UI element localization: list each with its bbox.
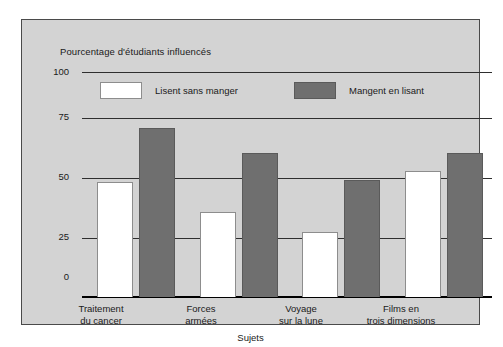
gridline-75 <box>82 118 492 119</box>
bar-0-1 <box>139 128 175 297</box>
x-category-line1: Films en <box>383 303 419 314</box>
bar-2-0 <box>302 232 338 297</box>
x-category-line2: du cancer <box>46 315 156 327</box>
y-tick-label-0: 0 <box>39 271 69 282</box>
bar-3-0 <box>405 171 441 297</box>
x-category-label-0: Traitement du cancer <box>46 303 156 326</box>
x-category-label-2: Voyage sur la lune <box>246 303 356 326</box>
bar-1-0 <box>200 212 236 298</box>
x-category-line2: sur la lune <box>246 315 356 327</box>
figure-canvas: Pourcentage d'étudiants influencés 100 7… <box>0 0 503 347</box>
x-category-label-3: Films en trois dimensions <box>346 303 456 326</box>
page-title: Pourcentage d'étudiants influencés <box>60 46 211 57</box>
x-category-line1: Traitement <box>78 303 123 314</box>
plot-area <box>82 72 492 297</box>
y-tick-label-50: 50 <box>39 171 69 182</box>
y-tick-label-75: 75 <box>39 111 69 122</box>
bar-1-1 <box>242 153 278 297</box>
bar-3-1 <box>447 153 483 297</box>
chart-panel: Pourcentage d'étudiants influencés 100 7… <box>21 19 480 325</box>
y-tick-label-25: 25 <box>39 231 69 242</box>
x-category-line2: trois dimensions <box>346 315 456 327</box>
y-tick-label-100: 100 <box>39 66 69 77</box>
x-category-label-1: Forces armées <box>146 303 256 326</box>
x-category-line2: armées <box>146 315 256 327</box>
bar-0-0 <box>97 182 133 297</box>
x-category-line1: Forces <box>186 303 215 314</box>
gridline-100 <box>82 72 492 73</box>
x-category-line1: Voyage <box>285 303 317 314</box>
bar-2-1 <box>344 180 380 297</box>
x-axis-title: Sujets <box>22 332 479 343</box>
